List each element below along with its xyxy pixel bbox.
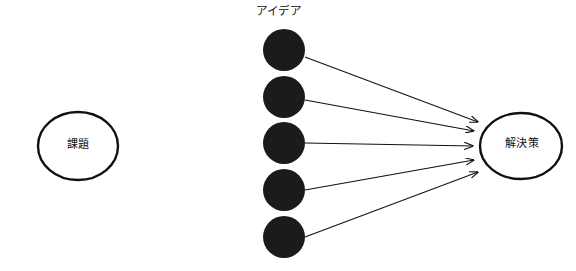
arrow-idea-5-to-solution (305, 172, 478, 237)
node-idea-5[interactable] (263, 216, 305, 258)
arrow-idea-2-to-solution (305, 100, 474, 131)
arrow-idea-3-to-solution (305, 143, 473, 146)
node-idea-1[interactable] (263, 29, 305, 71)
node-issue-label: 課題 (38, 137, 118, 151)
node-idea-2[interactable] (263, 76, 305, 118)
arrow-idea-4-to-solution (305, 160, 474, 190)
node-solution-label: 解決策 (482, 136, 562, 150)
arrow-idea-1-to-solution (305, 57, 478, 122)
node-idea-3[interactable] (263, 122, 305, 164)
idea-group-label: アイデア (256, 4, 301, 19)
node-idea-4[interactable] (263, 169, 305, 211)
